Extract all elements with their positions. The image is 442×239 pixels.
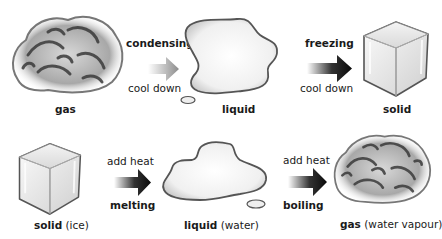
process-label-freezing: freezing: [305, 38, 354, 49]
condition-label-add-heat: add heat: [107, 156, 154, 167]
arrow-right-icon: [307, 55, 353, 82]
state-label-gas-water-vapour: gas (water vapour): [340, 219, 442, 230]
process-label-boiling: boiling: [283, 200, 324, 211]
ice-cube-icon: [358, 18, 432, 100]
state-name: liquid: [184, 219, 217, 231]
liquid-puddle-icon: [160, 140, 272, 215]
liquid-puddle-icon: [182, 15, 282, 105]
state-label-solid: solid: [383, 104, 411, 115]
state-extra: (water vapour): [361, 218, 442, 230]
gas-cloud-icon: [8, 10, 126, 95]
state-name: solid: [34, 219, 62, 231]
state-name: solid: [383, 103, 411, 115]
state-name: gas: [55, 103, 76, 115]
state-label-liquid: liquid: [222, 104, 255, 115]
gas-cloud-icon: [330, 125, 434, 209]
state-name: gas: [340, 218, 361, 230]
condition-label-cool-down: cool down: [128, 83, 181, 94]
arrow-right-icon: [114, 169, 152, 196]
state-label-gas: gas: [55, 104, 76, 115]
state-name: liquid: [222, 103, 255, 115]
arrow-right-icon: [288, 168, 328, 196]
arrow-right-icon: [148, 57, 180, 81]
state-label-solid-ice: solid (ice): [34, 220, 89, 231]
state-extra: (water): [217, 219, 258, 231]
state-label-liquid-water: liquid (water): [184, 220, 259, 231]
state-extra: (ice): [62, 219, 89, 231]
process-label-melting: melting: [110, 200, 155, 211]
ice-cube-icon: [10, 140, 88, 218]
condition-label-add-heat: add heat: [283, 155, 330, 166]
condition-label-cool-down: cool down: [300, 83, 353, 94]
